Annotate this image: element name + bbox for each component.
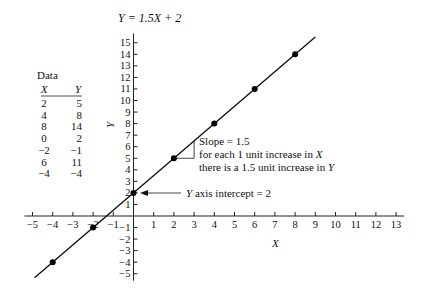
data-table-cell-y: 5 [77,97,83,109]
y-tick-label: 13 [120,60,131,71]
y-tick-label: 12 [120,72,131,83]
y-tick-label: 8 [125,118,130,129]
intercept-arrow [140,190,181,196]
x-axis-label: X [271,237,280,249]
arrowhead-icon [140,190,148,196]
data-point [131,190,137,196]
data-table-cell-x: 4 [41,109,47,121]
x-tick-label: −3 [67,219,78,230]
data-table-cell-y: 11 [71,156,82,168]
data-point [292,51,298,57]
x-tick-label: 6 [252,219,257,230]
data-table: Data X Y 254881402−2−1611−4−4 [37,69,83,179]
data-point [90,225,96,231]
intercept-annotation: Y axis intercept = 2 [186,187,271,199]
y-tick-label: 1 [125,199,130,210]
y-tick-label: 9 [125,107,130,118]
y-tick-label: 10 [120,95,131,106]
y-tick-label: −2 [119,234,130,245]
data-table-cell-x: 2 [41,97,47,109]
y-tick-label: −1 [119,222,130,233]
y-tick-label: 3 [125,176,130,187]
data-table-cell-x: 0 [41,132,47,144]
x-tick-label: 7 [272,219,277,230]
y-tick-label: 5 [125,153,130,164]
x-tick-label: 13 [391,219,402,230]
y-tick-label: 4 [125,164,131,175]
y-tick-label: 14 [120,49,131,60]
x-tick-label: 9 [313,219,318,230]
x-tick-label: −4 [47,219,59,230]
data-point [252,86,258,92]
data-point [50,259,56,265]
data-table-cell-y: −1 [70,144,82,156]
data-table-cell-x: 6 [41,156,47,168]
x-tick-label: 11 [351,219,361,230]
y-tick-label: 15 [120,37,131,48]
slope-annotation-line3: there is a 1.5 unit increase in Y [199,161,336,173]
slope-annotation-line2: for each 1 unit increase in X [199,148,324,160]
x-tick-label: 3 [191,219,196,230]
data-table-cell-x: −4 [38,167,50,179]
data-table-cell-x: 8 [41,120,47,132]
data-table-cell-y: 14 [71,120,83,132]
data-point [211,121,217,127]
y-tick-label: 11 [120,83,130,94]
x-tick-label: 4 [212,219,218,230]
y-tick-label: 7 [125,130,130,141]
x-tick-label: 2 [171,219,176,230]
x-tick-label: −1 [108,219,119,230]
slope-annotation-line1: Slope = 1.5 [199,135,250,147]
y-axis-label: Y [104,120,116,128]
linear-function-diagram: −5−4−3−2−112345678910111213−5−4−3−2−1123… [0,0,427,296]
data-table-header-x: X [40,83,49,95]
x-tick-label: 5 [232,219,237,230]
x-tick-label: 1 [151,219,156,230]
y-tick-label: 6 [125,141,130,152]
y-tick-label: −4 [119,257,131,268]
data-table-cell-y: −4 [70,167,82,179]
data-table-cell-y: 2 [77,132,83,144]
y-tick-label: −3 [119,245,130,256]
data-table-header-y: Y [75,83,83,95]
x-tick-label: 12 [371,219,382,230]
x-tick-label: 10 [330,219,341,230]
data-table-cell-x: −2 [38,144,50,156]
y-tick-label: −5 [119,268,130,279]
x-tick-label: 8 [292,219,297,230]
data-table-cell-y: 8 [77,109,83,121]
data-table-title: Data [37,69,58,81]
x-tick-label: −5 [27,219,38,230]
chart-title: Y = 1.5X + 2 [118,11,181,25]
